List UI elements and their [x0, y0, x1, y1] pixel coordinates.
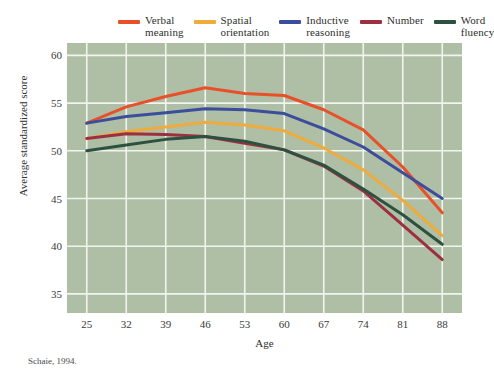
legend-item-verbal-meaning: Verbalmeaning [118, 14, 184, 38]
x-tick-label: 74 [343, 318, 383, 330]
x-tick-label: 81 [383, 318, 423, 330]
plot-area [67, 43, 462, 313]
legend-label: Wordfluency [461, 14, 494, 38]
chart-legend: VerbalmeaningSpatialorientationInductive… [118, 14, 468, 46]
legend-label: Spatialorientation [221, 14, 270, 38]
legend-swatch-icon [279, 20, 301, 24]
x-tick-label: 67 [304, 318, 344, 330]
y-tick-label: 50 [32, 145, 62, 157]
legend-item-number: Number [360, 14, 424, 26]
x-tick-label: 88 [422, 318, 462, 330]
legend-label: Verbalmeaning [145, 14, 184, 38]
legend-swatch-icon [194, 20, 216, 24]
x-axis-label: Age [67, 337, 462, 349]
legend-item-spatial-orientation: Spatialorientation [194, 14, 270, 38]
source-note: Schaie, 1994. [28, 356, 77, 366]
x-tick-label: 39 [146, 318, 186, 330]
legend-label: Number [387, 14, 424, 26]
series-line-spatial-orientation [87, 122, 443, 236]
x-tick-label: 25 [67, 318, 107, 330]
y-tick-label: 35 [32, 288, 62, 300]
legend-swatch-icon [118, 20, 140, 24]
y-axis-ticks: 605550454035 [26, 43, 62, 313]
x-tick-label: 60 [264, 318, 304, 330]
legend-label: Inductivereasoning [306, 14, 350, 38]
y-tick-label: 45 [32, 193, 62, 205]
legend-swatch-icon [360, 20, 382, 24]
y-tick-label: 60 [32, 49, 62, 61]
legend-swatch-icon [434, 20, 456, 24]
x-axis-ticks: 25323946536067748188 [67, 318, 462, 334]
legend-item-inductive-reasoning: Inductivereasoning [279, 14, 350, 38]
y-tick-label: 40 [32, 240, 62, 252]
x-tick-label: 32 [106, 318, 146, 330]
y-axis-label: Average standardized score [17, 31, 29, 241]
plot-lines [67, 43, 462, 313]
legend-item-word-fluency: Wordfluency [434, 14, 494, 38]
x-tick-label: 53 [225, 318, 265, 330]
x-tick-label: 46 [185, 318, 225, 330]
y-tick-label: 55 [32, 97, 62, 109]
